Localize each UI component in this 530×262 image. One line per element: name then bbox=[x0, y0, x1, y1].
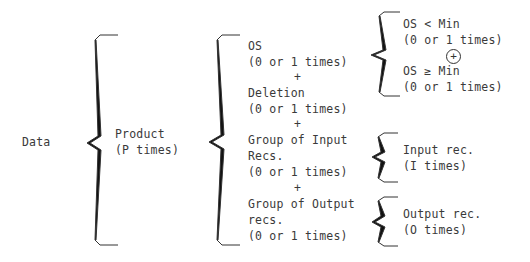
input-group-repeat: (0 or 1 times) bbox=[248, 165, 348, 181]
output-rec-repeat: (O times) bbox=[403, 223, 467, 239]
brace-output-icon bbox=[372, 197, 398, 246]
input-rec-label: Input rec. bbox=[403, 143, 474, 159]
output-group-label2: recs. bbox=[248, 213, 284, 229]
os-lt-min-repeat: (0 or 1 times) bbox=[403, 33, 503, 49]
exclusive-or-icon: + bbox=[446, 49, 461, 64]
brace-input-icon bbox=[372, 133, 398, 182]
output-group-label: Group of Output bbox=[248, 197, 355, 213]
os-repeat: (0 or 1 times) bbox=[248, 55, 348, 71]
output-rec-label: Output rec. bbox=[403, 207, 481, 223]
brace-product-icon bbox=[209, 35, 240, 245]
os-lt-min-label: OS < Min bbox=[403, 17, 460, 33]
deletion-repeat: (0 or 1 times) bbox=[248, 102, 348, 118]
input-group-label: Group of Input bbox=[248, 133, 348, 149]
deletion-label: Deletion bbox=[248, 86, 305, 102]
brace-data-icon bbox=[87, 35, 118, 245]
product-label: Product bbox=[115, 127, 165, 143]
input-group-label2: Recs. bbox=[248, 149, 284, 165]
input-rec-repeat: (I times) bbox=[403, 159, 467, 175]
os-ge-min-repeat: (0 or 1 times) bbox=[403, 80, 503, 96]
plus-separator: + bbox=[294, 70, 301, 86]
plus-separator: + bbox=[294, 181, 301, 197]
plus-separator: + bbox=[294, 117, 301, 133]
os-ge-min-label: OS ≥ Min bbox=[403, 64, 460, 80]
output-group-repeat: (0 or 1 times) bbox=[248, 229, 348, 245]
os-label: OS bbox=[248, 39, 262, 55]
brace-os-icon bbox=[371, 12, 400, 96]
product-repeat: (P times) bbox=[115, 143, 179, 159]
root-label: Data bbox=[22, 135, 51, 151]
